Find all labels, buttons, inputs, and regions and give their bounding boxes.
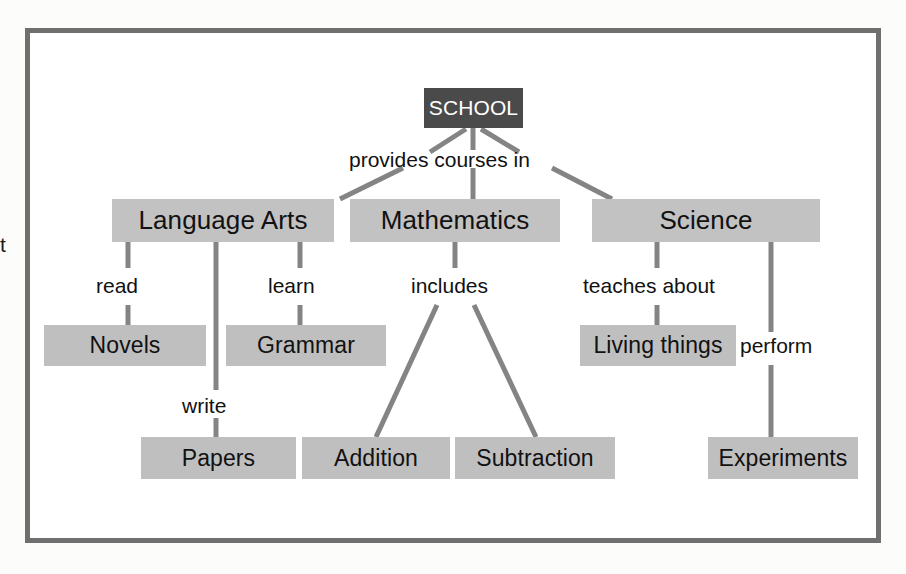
- node-addition[interactable]: Addition: [302, 437, 450, 479]
- node-papers[interactable]: Papers: [141, 437, 296, 479]
- left-margin-text-fragment: t: [0, 234, 6, 255]
- link-label-teaches-about: teaches about: [583, 274, 715, 298]
- node-science-label: Science: [659, 205, 752, 236]
- link-label-read: read: [96, 274, 138, 298]
- node-novels-label: Novels: [90, 332, 161, 359]
- link-label-provides-courses-in: provides courses in: [349, 148, 530, 172]
- node-school-label: SCHOOL: [429, 96, 518, 120]
- node-living-things[interactable]: Living things: [580, 325, 736, 366]
- node-subtraction-label: Subtraction: [476, 445, 593, 472]
- node-experiments[interactable]: Experiments: [708, 437, 858, 479]
- link-label-perform: perform: [740, 334, 812, 358]
- node-language-arts[interactable]: Language Arts: [112, 199, 334, 242]
- node-addition-label: Addition: [334, 445, 418, 472]
- node-grammar-label: Grammar: [257, 332, 355, 359]
- scanned-page: t: [0, 0, 906, 574]
- node-grammar[interactable]: Grammar: [226, 325, 386, 366]
- node-mathematics-label: Mathematics: [381, 205, 529, 236]
- link-label-learn: learn: [268, 274, 315, 298]
- node-science[interactable]: Science: [592, 199, 820, 242]
- node-novels[interactable]: Novels: [44, 325, 206, 366]
- node-school[interactable]: SCHOOL: [424, 88, 523, 128]
- node-papers-label: Papers: [182, 445, 255, 472]
- node-mathematics[interactable]: Mathematics: [350, 199, 560, 242]
- node-subtraction[interactable]: Subtraction: [455, 437, 615, 479]
- link-label-write: write: [182, 394, 226, 418]
- node-living-things-label: Living things: [593, 332, 722, 359]
- node-experiments-label: Experiments: [719, 445, 848, 472]
- link-label-includes: includes: [411, 274, 488, 298]
- node-language-arts-label: Language Arts: [139, 205, 308, 236]
